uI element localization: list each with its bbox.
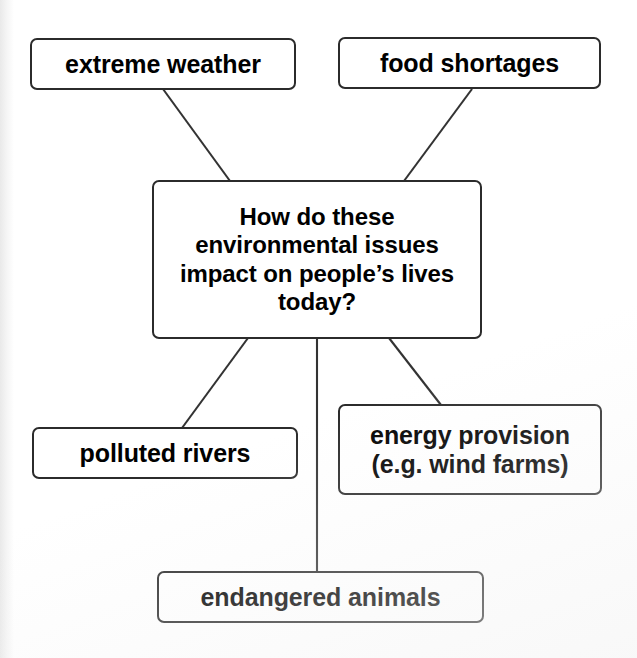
node-food-shortages-label: food shortages <box>380 49 559 77</box>
node-endangered-animals[interactable]: endangered animals <box>157 571 484 623</box>
node-central-question[interactable]: How do these environmental issues impact… <box>152 180 482 339</box>
node-food-shortages[interactable]: food shortages <box>338 37 601 89</box>
node-endangered-animals-label: endangered animals <box>201 583 441 611</box>
node-energy-provision[interactable]: energy provision (e.g. wind farms) <box>338 404 602 495</box>
node-central-question-label: How do these environmental issues impact… <box>180 203 454 316</box>
node-energy-provision-label: energy provision (e.g. wind farms) <box>370 421 570 479</box>
node-polluted-rivers-label: polluted rivers <box>80 439 251 467</box>
node-extreme-weather[interactable]: extreme weather <box>30 38 296 90</box>
node-extreme-weather-label: extreme weather <box>65 50 261 78</box>
connector-central-to-energy-provision <box>389 338 441 405</box>
connector-food-shortages-to-central <box>404 89 472 181</box>
connector-extreme-weather-to-central <box>163 89 230 181</box>
mind-map-diagram: extreme weather food shortages How do th… <box>0 0 637 658</box>
node-polluted-rivers[interactable]: polluted rivers <box>32 427 298 479</box>
connector-central-to-polluted-rivers <box>182 338 248 428</box>
